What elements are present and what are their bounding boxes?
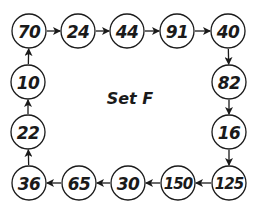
node-value: 150 xyxy=(164,175,193,193)
node-value: 22 xyxy=(17,123,40,143)
node-value: 40 xyxy=(216,22,240,42)
node-150: 150 xyxy=(161,166,195,200)
node-value: 16 xyxy=(218,123,241,143)
node-91: 91 xyxy=(160,14,194,48)
node-36: 36 xyxy=(12,166,46,200)
node-value: 91 xyxy=(166,22,189,42)
node-value: 30 xyxy=(117,174,140,194)
node-16: 16 xyxy=(212,115,246,149)
node-24: 24 xyxy=(61,14,95,48)
node-44: 44 xyxy=(110,14,144,48)
node-value: 82 xyxy=(218,73,241,93)
node-value: 24 xyxy=(67,22,90,42)
set-title: Set F xyxy=(100,89,160,108)
node-10: 10 xyxy=(11,65,45,99)
node-value: 65 xyxy=(68,174,91,194)
node-70: 70 xyxy=(12,14,46,48)
node-82: 82 xyxy=(212,65,246,99)
node-22: 22 xyxy=(11,115,45,149)
node-65: 65 xyxy=(62,166,96,200)
node-value: 10 xyxy=(17,73,40,93)
node-40: 40 xyxy=(211,14,245,48)
node-value: 125 xyxy=(215,175,244,193)
node-125: 125 xyxy=(212,166,246,200)
node-30: 30 xyxy=(111,166,145,200)
node-value: 36 xyxy=(18,174,41,194)
node-value: 44 xyxy=(115,22,139,42)
node-value: 70 xyxy=(18,22,41,42)
